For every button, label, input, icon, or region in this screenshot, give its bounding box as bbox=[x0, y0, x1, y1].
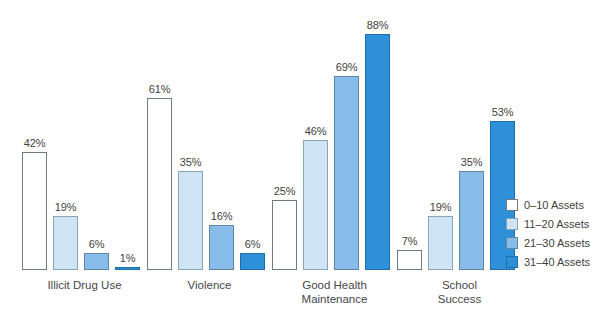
plot-area: 42%19%6%1%Illicit Drug Use61%35%16%6%Vio… bbox=[0, 0, 500, 321]
bar[interactable] bbox=[22, 152, 47, 270]
bar-slot: 19% bbox=[428, 20, 453, 270]
legend-item[interactable]: 11–20 Assets bbox=[506, 215, 590, 232]
bar-value-label: 19% bbox=[430, 202, 452, 213]
legend-swatch-icon bbox=[506, 256, 518, 268]
bar-group: 25%46%69%88% bbox=[272, 20, 390, 270]
bar[interactable] bbox=[209, 225, 234, 270]
bar-value-label: 16% bbox=[211, 211, 233, 222]
bar-slot: 69% bbox=[334, 20, 359, 270]
bar-slot: 46% bbox=[303, 20, 328, 270]
bar-slot: 61% bbox=[147, 20, 172, 270]
bar-value-label: 61% bbox=[149, 84, 171, 95]
bar-value-label: 46% bbox=[305, 126, 327, 137]
bar-slot: 19% bbox=[53, 20, 78, 270]
bar-slot: 88% bbox=[365, 20, 390, 270]
bar-value-label: 35% bbox=[180, 157, 202, 168]
bar-value-label: 25% bbox=[274, 186, 296, 197]
legend-item-label: 21–30 Assets bbox=[524, 237, 590, 249]
legend-item-label: 31–40 Assets bbox=[524, 256, 590, 268]
bar[interactable] bbox=[303, 140, 328, 270]
bar-value-label: 19% bbox=[55, 202, 77, 213]
bar-value-label: 6% bbox=[245, 239, 261, 250]
legend-swatch-icon bbox=[506, 237, 518, 249]
bar-value-label: 35% bbox=[461, 157, 483, 168]
legend-item[interactable]: 0–10 Assets bbox=[506, 196, 590, 213]
bar-slot: 7% bbox=[397, 20, 422, 270]
bar-slot: 35% bbox=[459, 20, 484, 270]
legend-item[interactable]: 21–30 Assets bbox=[506, 234, 590, 251]
bar-slot: 6% bbox=[84, 20, 109, 270]
bar[interactable] bbox=[428, 216, 453, 270]
bar-slot: 35% bbox=[178, 20, 203, 270]
bar[interactable] bbox=[397, 250, 422, 270]
bar[interactable] bbox=[459, 171, 484, 270]
bar-value-label: 7% bbox=[402, 236, 418, 247]
bar-slot: 25% bbox=[272, 20, 297, 270]
bar-value-label: 1% bbox=[120, 253, 136, 264]
bar-value-label: 6% bbox=[89, 239, 105, 250]
bar-group: 7%19%35%53% bbox=[397, 20, 515, 270]
bar-slot: 1% bbox=[115, 20, 140, 270]
bar-slot: 6% bbox=[240, 20, 265, 270]
bar[interactable] bbox=[115, 267, 140, 270]
legend-item-label: 0–10 Assets bbox=[524, 199, 584, 211]
bar-group: 42%19%6%1% bbox=[22, 20, 140, 270]
bar[interactable] bbox=[365, 34, 390, 270]
bar[interactable] bbox=[272, 200, 297, 270]
bar-value-label: 42% bbox=[24, 138, 46, 149]
category-label: School Success bbox=[372, 278, 547, 306]
bar-slot: 16% bbox=[209, 20, 234, 270]
bar-value-label: 69% bbox=[336, 62, 358, 73]
bar-value-label: 53% bbox=[492, 107, 514, 118]
bar[interactable] bbox=[240, 253, 265, 270]
bar[interactable] bbox=[147, 98, 172, 270]
bar-slot: 42% bbox=[22, 20, 47, 270]
legend-item[interactable]: 31–40 Assets bbox=[506, 253, 590, 270]
bar-group: 61%35%16%6% bbox=[147, 20, 265, 270]
bar[interactable] bbox=[53, 216, 78, 270]
legend-item-label: 11–20 Assets bbox=[524, 218, 589, 230]
bar[interactable] bbox=[334, 76, 359, 270]
bar-chart: 42%19%6%1%Illicit Drug Use61%35%16%6%Vio… bbox=[0, 0, 616, 321]
chart-legend: 0–10 Assets11–20 Assets21–30 Assets31–40… bbox=[506, 196, 590, 272]
legend-swatch-icon bbox=[506, 218, 518, 230]
bar[interactable] bbox=[84, 253, 109, 270]
legend-swatch-icon bbox=[506, 199, 518, 211]
bar-value-label: 88% bbox=[367, 20, 389, 31]
bar[interactable] bbox=[178, 171, 203, 270]
